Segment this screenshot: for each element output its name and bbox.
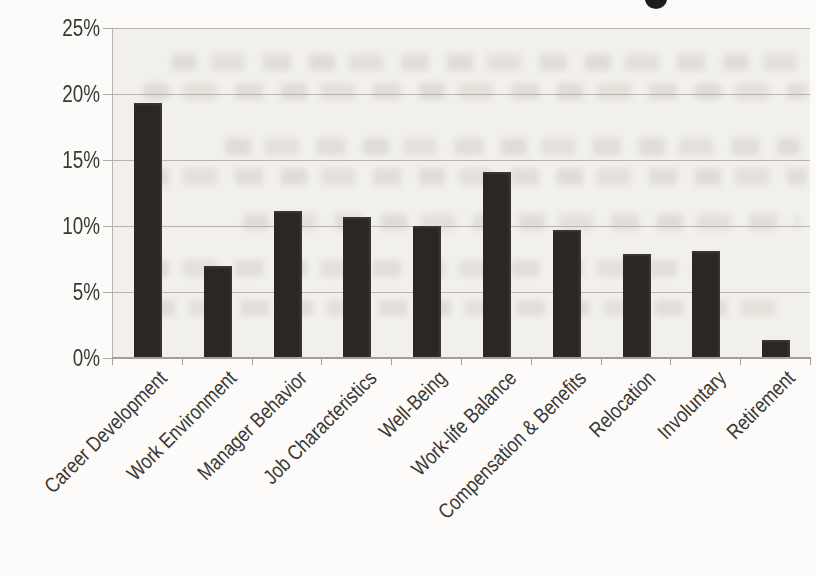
y-tick-label-25%: 25%: [18, 16, 100, 40]
y-tick-mark: [103, 160, 112, 161]
cropped-title-descender-glyph: [645, 0, 667, 9]
y-tick-mark: [103, 358, 112, 359]
bar-manager-behavior: [274, 211, 302, 358]
bar-well-being: [413, 226, 441, 358]
bar-job-characteristics: [343, 217, 371, 358]
y-tick-label-15%: 15%: [18, 148, 100, 172]
bar-relocation: [623, 254, 651, 358]
x-tick-mark: [252, 358, 253, 365]
bleed-through-text-band: [143, 168, 807, 185]
y-tick-label-20%: 20%: [18, 82, 100, 106]
y-tick-mark: [103, 226, 112, 227]
bar-work-environment: [204, 266, 232, 358]
x-tick-mark: [810, 358, 811, 365]
gridline-10%: [113, 226, 810, 227]
bleed-through-text-band: [243, 214, 799, 230]
y-tick-mark: [103, 28, 112, 29]
x-tick-mark: [601, 358, 602, 365]
bar-retirement: [762, 340, 790, 358]
x-label-retirement: Retirement: [722, 366, 800, 444]
bar-compensation-benefits: [553, 230, 581, 358]
x-tick-mark: [182, 358, 183, 365]
bar-career-development: [134, 103, 162, 358]
bleed-through-text-band: [225, 138, 800, 155]
x-tick-mark: [112, 358, 113, 365]
x-tick-mark: [321, 358, 322, 365]
x-tick-mark: [531, 358, 532, 365]
scanned-bar-chart-page: 0%5%10%15%20%25% Career DevelopmentWork …: [0, 0, 816, 576]
x-tick-mark: [461, 358, 462, 365]
y-tick-mark: [103, 292, 112, 293]
bar-involuntary: [692, 251, 720, 358]
x-label-career-development: Career Development: [40, 366, 172, 498]
gridline-25%: [113, 28, 810, 29]
x-label-relocation: Relocation: [585, 366, 661, 442]
y-tick-label-0%: 0%: [18, 346, 100, 370]
x-tick-mark: [670, 358, 671, 365]
x-tick-mark: [740, 358, 741, 365]
y-tick-mark: [103, 94, 112, 95]
bleed-through-text-band: [171, 54, 799, 71]
plot-area: [112, 28, 810, 358]
x-tick-mark: [391, 358, 392, 365]
gridline-15%: [113, 160, 810, 161]
x-label-involuntary: Involuntary: [652, 366, 730, 444]
bleed-through-text-band: [143, 83, 807, 100]
y-tick-label-10%: 10%: [18, 214, 100, 238]
y-tick-label-5%: 5%: [18, 280, 100, 304]
bar-work-life-balance: [483, 172, 511, 358]
gridline-20%: [113, 94, 810, 95]
